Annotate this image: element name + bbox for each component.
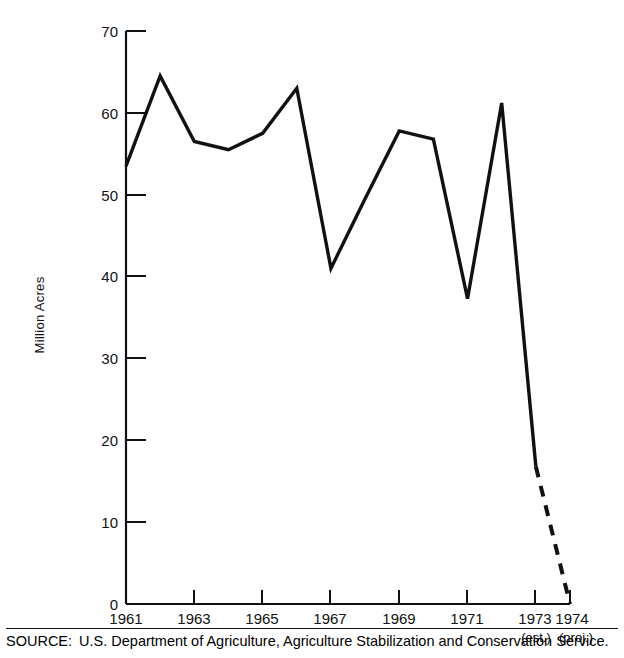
source-text: U.S. Department of Agriculture, Agricult… <box>79 633 609 649</box>
y-tick-label: 50 <box>101 187 118 204</box>
y-axis-title: Million Acres <box>32 276 47 353</box>
x-tick-label: 1961 <box>109 610 142 627</box>
y-tick-label: 20 <box>101 432 118 449</box>
source-note: SOURCE: U.S. Department of Agriculture, … <box>6 628 618 649</box>
x-tick-label: 1963 <box>177 610 210 627</box>
line-chart: 70 60 50 40 30 20 10 0 1961 1963 1965 19… <box>0 0 624 628</box>
y-tick-label: 30 <box>101 350 118 367</box>
data-line-projection <box>536 466 570 604</box>
x-tick-label: 1971 <box>450 610 483 627</box>
x-tick-group <box>126 590 570 604</box>
y-tick-group <box>126 31 146 522</box>
x-tick-label: 1969 <box>382 610 415 627</box>
x-tick-label: 1974 <box>555 610 588 627</box>
y-tick-label: 70 <box>101 23 118 40</box>
source-label: SOURCE: <box>6 633 72 649</box>
data-line-solid <box>126 76 536 466</box>
y-tick-label: 10 <box>101 514 118 531</box>
x-tick-label: 1973 <box>518 610 551 627</box>
y-tick-label: 60 <box>101 105 118 122</box>
x-tick-label: 1965 <box>245 610 278 627</box>
chart-figure: 70 60 50 40 30 20 10 0 1961 1963 1965 19… <box>0 0 624 658</box>
y-tick-label: 40 <box>101 268 118 285</box>
x-tick-label: 1967 <box>313 610 346 627</box>
